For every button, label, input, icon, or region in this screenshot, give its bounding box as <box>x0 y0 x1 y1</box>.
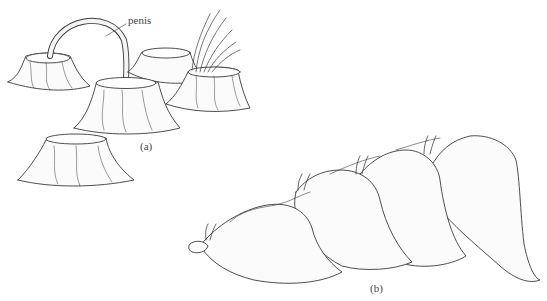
panel-a-label: (a) <box>140 140 152 152</box>
figure: penis (a) (b) <box>0 0 547 301</box>
sea-hare-chain <box>189 136 540 284</box>
penis-label: penis <box>128 14 151 26</box>
illustration <box>0 0 547 301</box>
barnacle-cluster <box>8 10 250 186</box>
panel-b-label: (b) <box>370 282 383 294</box>
